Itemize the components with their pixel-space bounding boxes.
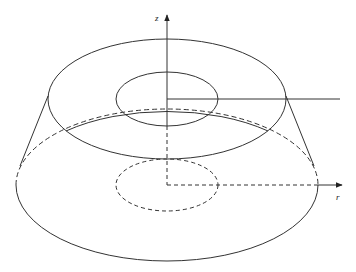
right-slant-edge (286, 96, 314, 166)
left-slant-edge (20, 96, 48, 166)
bottom-outer-ellipse-front (16, 185, 318, 261)
z-axis-label: z (154, 13, 159, 23)
frustum-diagram: z r (0, 0, 356, 272)
r-axis-label: r (336, 192, 340, 202)
